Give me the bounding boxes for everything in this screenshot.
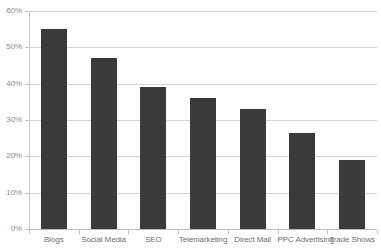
x-axis-label: Blogs [29,236,79,244]
x-axis-label: Direct Mail [228,236,278,244]
gridline [29,47,377,48]
y-axis-label: 10% [0,189,22,197]
bar-chart: 60%50%40%30%20%10%0% BlogsSocial MediaSE… [0,0,381,251]
gridline [29,229,377,230]
x-axis-label: Trade Shows [327,236,377,244]
plot-area [29,11,377,229]
bar [41,29,67,229]
x-axis-label: Social Media [79,236,129,244]
x-axis-tick [327,230,328,234]
x-axis-tick [29,230,30,234]
bar [289,133,315,229]
x-axis-tick [79,230,80,234]
gridline [29,84,377,85]
bar [91,58,117,229]
y-axis-label: 20% [0,152,22,160]
bar [240,109,266,229]
y-axis-label: 30% [0,116,22,124]
x-axis-tick [178,230,179,234]
x-axis-label: SEO [128,236,178,244]
x-axis-label: Telemarketing [178,236,228,244]
x-axis-label: PPC Advertising [278,236,328,244]
y-axis-label: 0% [0,225,22,233]
chart-title [0,0,381,3]
gridline [29,11,377,12]
y-axis-label: 50% [0,43,22,51]
bar [140,87,166,229]
bar [339,160,365,229]
x-axis-tick [128,230,129,234]
x-axis-tick [377,230,378,234]
y-axis-label: 60% [0,7,22,15]
y-axis-label: 40% [0,80,22,88]
bar [190,98,216,229]
x-axis-tick [228,230,229,234]
x-axis-tick [278,230,279,234]
